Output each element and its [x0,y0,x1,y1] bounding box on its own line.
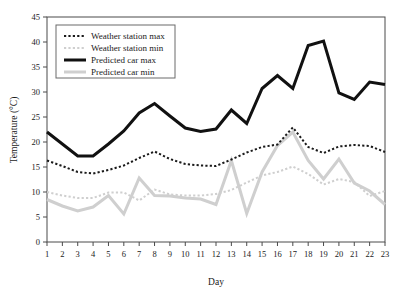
y-tick-label: 35 [32,62,41,72]
y-tick-label: 30 [32,87,41,97]
y-tick-label: 0 [36,237,40,247]
x-tick-label: 9 [168,249,172,259]
x-tick-label: 17 [289,249,298,259]
legend-label: Predicted car max [91,55,156,65]
line-chart: 051015202530354045 123456789101112131415… [0,0,403,293]
x-tick-label: 14 [242,249,251,259]
x-tick-label: 19 [319,249,328,259]
legend-label: Weather station min [91,43,164,53]
y-axis-title: Temperature (°C) [9,97,20,164]
y-tick-label: 10 [32,187,41,197]
x-tick-label: 18 [304,249,313,259]
x-tick-label: 23 [381,249,390,259]
x-tick-label: 5 [106,249,110,259]
x-tick-label: 3 [76,249,80,259]
y-axis-ticks: 051015202530354045 [32,12,48,247]
legend-label: Weather station max [91,31,165,41]
y-tick-label: 40 [32,37,41,47]
x-tick-label: 12 [212,249,221,259]
x-tick-label: 21 [350,249,359,259]
y-tick-label: 5 [36,212,40,222]
x-tick-label: 15 [258,249,267,259]
x-axis-title: Day [208,277,224,287]
x-axis-ticks: 1234567891011121314151617181920212223 [45,242,389,259]
x-tick-label: 7 [137,249,141,259]
x-tick-label: 10 [181,249,190,259]
x-tick-label: 8 [152,249,156,259]
chart-container: 051015202530354045 123456789101112131415… [0,0,403,293]
chart-legend: Weather station maxWeather station minPr… [56,25,175,78]
x-tick-label: 22 [365,249,374,259]
x-tick-label: 4 [91,249,96,259]
y-tick-label: 25 [32,112,41,122]
y-tick-label: 15 [32,162,41,172]
x-tick-label: 16 [273,249,282,259]
x-tick-label: 1 [45,249,49,259]
legend-label: Predicted car min [91,67,155,77]
x-tick-label: 2 [60,249,64,259]
y-tick-label: 20 [32,137,41,147]
y-tick-label: 45 [32,12,41,22]
x-tick-label: 6 [122,249,126,259]
x-tick-label: 13 [227,249,236,259]
x-tick-label: 20 [335,249,344,259]
x-tick-label: 11 [197,249,205,259]
